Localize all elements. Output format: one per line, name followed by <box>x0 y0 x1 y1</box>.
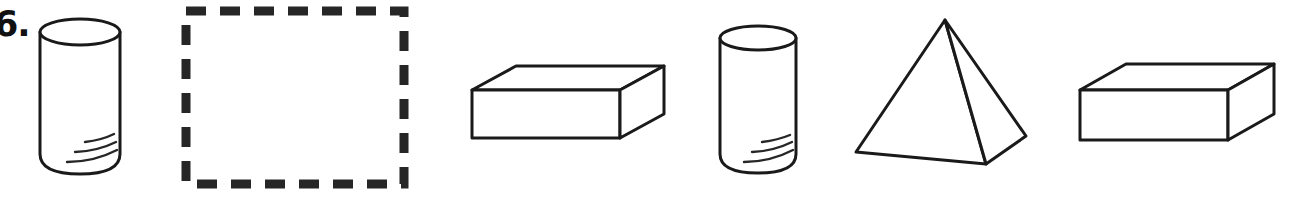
figure-cylinder-2 <box>710 20 806 190</box>
prism-front-face <box>1080 90 1228 140</box>
figure-cylinder-1 <box>30 14 130 190</box>
figure-rectangular-prism-2 <box>1072 54 1282 152</box>
cylinder-top-ellipse <box>720 26 796 50</box>
figure-pyramid <box>846 12 1038 174</box>
prism-front-face <box>472 90 620 138</box>
figure-rectangular-prism-1 <box>464 56 674 152</box>
problem-number-label: 6. <box>0 4 30 44</box>
answer-box-empty-slot[interactable] <box>181 6 409 189</box>
cylinder-top-ellipse <box>40 19 120 45</box>
worksheet-problem-row: 6. <box>0 0 1289 207</box>
answer-box-dashed-border <box>186 11 404 184</box>
